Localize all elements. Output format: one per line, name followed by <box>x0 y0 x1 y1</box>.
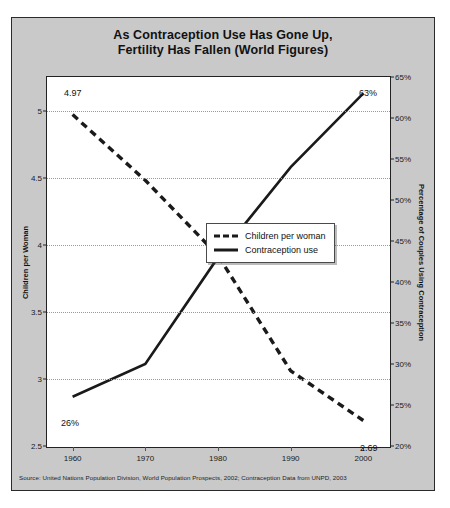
right-axis-tick-label: 25% <box>395 401 411 410</box>
right-axis-title: Percentage of Couples Using Contraceptio… <box>416 76 428 448</box>
right-axis-tick-label: 20% <box>395 442 411 451</box>
right-axis-tick-label: 45% <box>395 237 411 246</box>
x-axis-tick-mark <box>73 447 74 451</box>
left-axis-tick-mark <box>43 311 47 312</box>
legend-swatch-dashed-icon <box>213 231 239 241</box>
right-axis-title-text: Percentage of Couples Using Contraceptio… <box>418 183 427 340</box>
legend-item-contraception-use: Contraception use <box>213 243 326 257</box>
right-axis-tick-label: 50% <box>395 196 411 205</box>
right-axis-tick-mark <box>390 323 394 324</box>
right-axis-tick-mark <box>390 241 394 242</box>
left-axis-tick-label: 3 <box>38 374 42 383</box>
left-axis-tick-mark <box>43 446 47 447</box>
left-axis-tick-mark <box>43 244 47 245</box>
x-axis-tick-mark <box>218 447 219 451</box>
series-line-children-per-woman <box>73 115 364 421</box>
chart-title: As Contraception Use Has Gone Up, Fertil… <box>12 28 434 58</box>
x-axis-tick-label: 1980 <box>209 454 227 463</box>
right-axis-tick-label: 40% <box>395 278 411 287</box>
x-axis-tick-label: 1990 <box>282 454 300 463</box>
x-axis-tick-label: 1960 <box>64 454 82 463</box>
x-axis-tick-label: 2000 <box>354 454 372 463</box>
legend-label-contraception-use: Contraception use <box>245 245 318 255</box>
right-axis-tick-mark <box>390 159 394 160</box>
left-axis-title-text: Children per Woman <box>22 225 31 298</box>
right-axis-tick-label: 30% <box>395 360 411 369</box>
left-axis-tick-label: 3.5 <box>31 307 42 316</box>
gridline <box>47 379 390 380</box>
legend-label-children-per-woman: Children per woman <box>245 231 326 241</box>
left-axis-tick-mark <box>43 177 47 178</box>
annotation-fertility-end: 2.69 <box>360 443 378 453</box>
gridline <box>47 178 390 179</box>
left-axis-tick-mark <box>43 110 47 111</box>
x-axis-tick-label: 1970 <box>136 454 154 463</box>
gridline <box>47 111 390 112</box>
left-axis-tick-label: 2.5 <box>31 442 42 451</box>
right-axis-tick-mark <box>390 118 394 119</box>
chart-figure: As Contraception Use Has Gone Up, Fertil… <box>11 17 435 491</box>
right-axis-tick-mark <box>390 77 394 78</box>
source-text: Source: United Nations Population Divisi… <box>12 474 347 481</box>
right-axis-tick-label: 65% <box>395 73 411 82</box>
legend-item-children-per-woman: Children per woman <box>213 229 326 243</box>
left-axis-title: Children per Woman <box>20 76 32 448</box>
right-axis-tick-label: 35% <box>395 319 411 328</box>
source-band: Source: United Nations Population Divisi… <box>12 464 434 490</box>
right-axis-tick-mark <box>390 282 394 283</box>
left-axis-tick-label: 5 <box>38 106 42 115</box>
annotation-contraception-end: 63% <box>359 88 377 98</box>
annotation-fertility-start: 4.97 <box>64 88 82 98</box>
right-axis-tick-mark <box>390 405 394 406</box>
right-axis-tick-label: 55% <box>395 155 411 164</box>
chart-title-line-2: Fertility Has Fallen (World Figures) <box>12 43 434 58</box>
right-axis-tick-mark <box>390 364 394 365</box>
x-axis-tick-mark <box>145 447 146 451</box>
right-axis-tick-mark <box>390 200 394 201</box>
left-axis-tick-label: 4.5 <box>31 173 42 182</box>
left-axis-tick-label: 4 <box>38 240 42 249</box>
legend-swatch-solid-icon <box>213 245 239 255</box>
chart-title-line-1: As Contraception Use Has Gone Up, <box>12 28 434 43</box>
x-axis-tick-mark <box>291 447 292 451</box>
right-axis-tick-mark <box>390 446 394 447</box>
gridline <box>47 312 390 313</box>
right-axis-tick-label: 60% <box>395 114 411 123</box>
left-axis-tick-mark <box>43 378 47 379</box>
annotation-contraception-start: 26% <box>61 418 79 428</box>
chart-legend: Children per woman Contraception use <box>206 223 335 263</box>
